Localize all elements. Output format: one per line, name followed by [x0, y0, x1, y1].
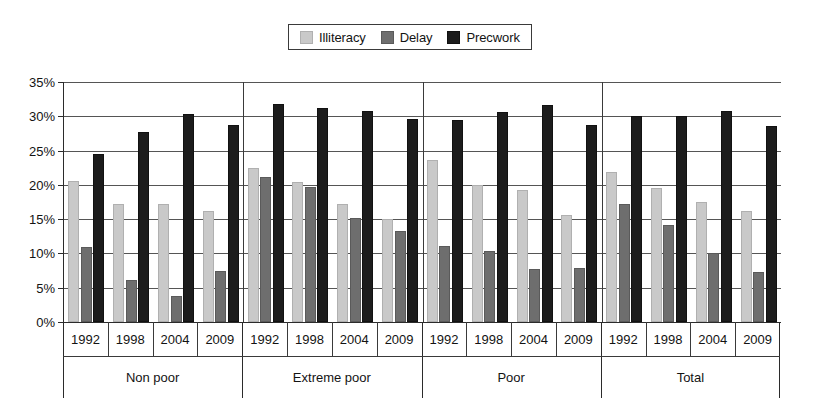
- y-axis-label: 0%: [36, 316, 55, 329]
- year-label-1992: 1992: [242, 322, 287, 356]
- bar-delay-poor-2004: [529, 269, 540, 322]
- year-label-1992: 1992: [601, 322, 646, 356]
- year-cell-divider: [556, 322, 557, 356]
- bar-precwork-non-poor-2004: [183, 114, 194, 322]
- group-label-extreme-poor: Extreme poor: [242, 356, 421, 398]
- year-label-1992: 1992: [422, 322, 467, 356]
- year-label-2004: 2004: [690, 322, 735, 356]
- bar-precwork-extreme-poor-2009: [407, 119, 418, 322]
- year-cell-divider: [511, 322, 512, 356]
- bar-delay-extreme-poor-2004: [350, 218, 361, 322]
- bar-illiteracy-poor-1998: [472, 185, 483, 322]
- year-group-divider: [63, 356, 780, 357]
- year-label-2004: 2004: [153, 322, 198, 356]
- y-axis-label: 10%: [29, 247, 55, 260]
- bar-precwork-total-2009: [766, 126, 777, 322]
- legend-entry-delay: Delay: [381, 31, 433, 44]
- year-cell-divider: [332, 322, 333, 356]
- bar-delay-total-2004: [708, 253, 719, 322]
- legend-entry-precwork: Precwork: [447, 31, 519, 44]
- bar-delay-poor-2009: [574, 268, 585, 322]
- bar-illiteracy-total-2009: [741, 211, 752, 322]
- bar-illiteracy-poor-1992: [427, 160, 438, 323]
- year-label-1998: 1998: [108, 322, 153, 356]
- bar-illiteracy-non-poor-2004: [158, 204, 169, 322]
- y-axis-label: 15%: [29, 213, 55, 226]
- year-cell-divider: [646, 322, 647, 356]
- plot-group-separator: [243, 82, 244, 322]
- legend-swatch-icon: [447, 31, 460, 44]
- legend-label: Delay: [400, 31, 433, 44]
- year-cell-divider: [108, 322, 109, 356]
- bar-delay-total-1992: [619, 204, 630, 322]
- bar-precwork-extreme-poor-2004: [362, 111, 373, 322]
- year-label-2004: 2004: [332, 322, 377, 356]
- bar-illiteracy-non-poor-1992: [68, 181, 79, 322]
- bar-illiteracy-poor-2009: [561, 215, 572, 322]
- bar-illiteracy-total-1992: [606, 172, 617, 322]
- bar-precwork-poor-2004: [542, 105, 553, 322]
- bar-illiteracy-poor-2004: [517, 190, 528, 322]
- group-boundary-rule: [601, 322, 602, 398]
- year-label-2004: 2004: [511, 322, 556, 356]
- bar-precwork-poor-1992: [452, 120, 463, 322]
- bar-illiteracy-total-1998: [651, 188, 662, 322]
- bar-illiteracy-extreme-poor-1992: [248, 168, 259, 322]
- year-label-2009: 2009: [556, 322, 601, 356]
- bar-delay-non-poor-2009: [215, 271, 226, 322]
- year-cell-divider: [690, 322, 691, 356]
- legend-swatch-icon: [300, 31, 313, 44]
- year-label-2009: 2009: [735, 322, 780, 356]
- group-label-non-poor: Non poor: [63, 356, 242, 398]
- y-axis-label: 30%: [29, 110, 55, 123]
- bar-precwork-total-1998: [676, 116, 687, 322]
- bar-illiteracy-extreme-poor-1998: [292, 182, 303, 322]
- bar-precwork-total-1992: [631, 116, 642, 322]
- year-cell-divider: [735, 322, 736, 356]
- year-label-2009: 2009: [197, 322, 242, 356]
- bar-delay-total-1998: [663, 225, 674, 322]
- year-label-1998: 1998: [287, 322, 332, 356]
- plot-group-separator: [602, 82, 603, 322]
- bar-illiteracy-total-2004: [696, 202, 707, 322]
- bar-precwork-non-poor-1992: [93, 154, 104, 322]
- bar-delay-extreme-poor-1998: [305, 187, 316, 322]
- bar-precwork-extreme-poor-1992: [273, 104, 284, 322]
- legend-entry-illiteracy: Illiteracy: [300, 31, 366, 44]
- y-axis-label: 20%: [29, 178, 55, 191]
- bar-precwork-non-poor-1998: [138, 132, 149, 322]
- chart-legend: IlliteracyDelayPrecwork: [288, 24, 532, 50]
- bar-delay-extreme-poor-2009: [395, 231, 406, 322]
- group-boundary-rule: [422, 322, 423, 398]
- bar-precwork-non-poor-2009: [228, 125, 239, 322]
- bar-precwork-extreme-poor-1998: [317, 108, 328, 322]
- group-boundary-rule: [63, 322, 64, 398]
- bar-delay-poor-1998: [484, 251, 495, 322]
- year-cell-divider: [287, 322, 288, 356]
- bar-precwork-poor-2009: [586, 125, 597, 322]
- group-boundary-rule: [242, 322, 243, 398]
- year-label-2009: 2009: [377, 322, 422, 356]
- legend-label: Precwork: [466, 31, 519, 44]
- legend-label: Illiteracy: [319, 31, 366, 44]
- bar-illiteracy-extreme-poor-2009: [382, 219, 393, 322]
- year-label-1998: 1998: [466, 322, 511, 356]
- group-label-poor: Poor: [422, 356, 601, 398]
- year-cell-divider: [197, 322, 198, 356]
- bar-delay-total-2009: [753, 272, 764, 322]
- legend-swatch-icon: [381, 31, 394, 44]
- bar-delay-non-poor-1998: [126, 280, 137, 323]
- bar-illiteracy-non-poor-1998: [113, 204, 124, 322]
- year-label-1998: 1998: [646, 322, 691, 356]
- bar-illiteracy-non-poor-2009: [203, 211, 214, 322]
- year-cell-divider: [466, 322, 467, 356]
- bar-precwork-total-2004: [721, 111, 732, 322]
- bar-delay-non-poor-2004: [171, 296, 182, 322]
- year-label-1992: 1992: [63, 322, 108, 356]
- year-cell-divider: [153, 322, 154, 356]
- y-axis-label: 5%: [36, 281, 55, 294]
- y-axis-label: 35%: [29, 76, 55, 89]
- bar-delay-non-poor-1992: [81, 247, 92, 322]
- bar-precwork-poor-1998: [497, 112, 508, 322]
- plot-area: 0%5%10%15%20%25%30%35%: [63, 82, 781, 322]
